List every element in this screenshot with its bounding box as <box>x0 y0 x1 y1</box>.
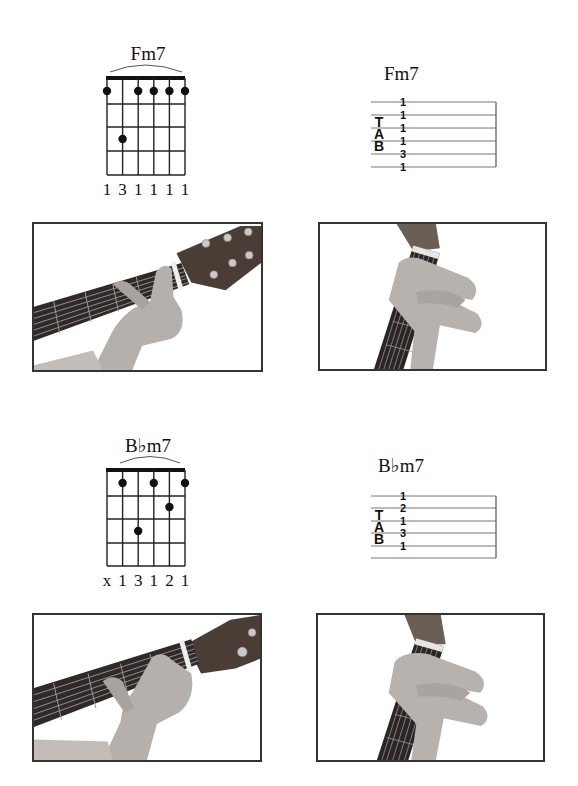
tab-clef-b: B <box>372 533 386 545</box>
tab-number: 1 <box>398 516 408 527</box>
tab-number: 1 <box>398 136 408 147</box>
chord-diagram-grid <box>98 452 194 572</box>
tab-title: Fm7 <box>384 63 419 85</box>
guitar-hand-photo-icon <box>318 615 543 760</box>
tab-clef-b: B <box>372 140 386 152</box>
tab-number: 1 <box>398 491 408 502</box>
chord-photo-player-view <box>318 222 547 371</box>
fingering-row: 1 3 1 1 1 1 <box>99 180 199 200</box>
guitar-hand-photo-icon <box>34 224 261 370</box>
barre-arc-icon <box>120 457 180 464</box>
finger-number: 1 <box>130 180 146 200</box>
finger-number: 3 <box>130 571 146 591</box>
tab-number: 1 <box>398 541 408 552</box>
finger-number: 1 <box>146 571 162 591</box>
guitar-hand-photo-icon <box>34 615 260 760</box>
tab-staff: T A B 1 2 1 3 1 <box>368 490 500 566</box>
barre-arc-icon <box>110 65 182 72</box>
tab-number: 1 <box>398 162 408 173</box>
chord-photo-front <box>32 613 262 762</box>
tab-number: 1 <box>398 110 408 121</box>
guitar-hand-photo-icon <box>320 224 545 369</box>
finger-number: 2 <box>161 571 177 591</box>
tab-number: 3 <box>398 149 408 160</box>
chord-diagram-grid <box>98 60 194 180</box>
finger-number: 3 <box>115 180 131 200</box>
finger-number: 1 <box>177 571 193 591</box>
tab-staff: T A B 1 1 1 1 3 1 <box>368 96 500 172</box>
tab-number: 1 <box>398 123 408 134</box>
finger-number: 1 <box>146 180 162 200</box>
finger-number: 1 <box>177 180 193 200</box>
chord-photo-front <box>32 222 263 372</box>
finger-number: 1 <box>161 180 177 200</box>
tab-title: B♭m7 <box>378 454 424 477</box>
finger-number: 1 <box>115 571 131 591</box>
chord-photo-player-view <box>316 613 545 762</box>
tab-number: 2 <box>398 503 408 514</box>
tab-number: 1 <box>398 97 408 108</box>
tab-number: 3 <box>398 528 408 539</box>
muted-string-marker: x <box>99 571 115 591</box>
fingering-row: x 1 3 1 2 1 <box>99 571 199 591</box>
finger-number: 1 <box>99 180 115 200</box>
finger-dot-icon <box>103 87 189 143</box>
